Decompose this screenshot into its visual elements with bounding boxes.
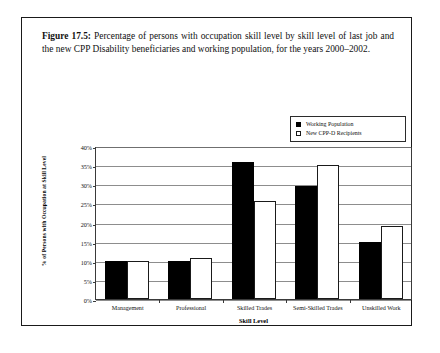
legend-item-new-cppd-recipients: New CPP-D Recipients: [296, 129, 401, 138]
bar-working-population: [105, 261, 127, 299]
y-axis-tick-label: 15%: [46, 241, 92, 247]
x-axis-title: Skill Level: [95, 317, 412, 324]
chart: % of Persons with Occupation at Skill Le…: [22, 114, 413, 327]
bars-layer: [96, 147, 411, 299]
figure-caption-text: Percentage of persons with occupation sk…: [42, 31, 394, 54]
legend-label-working-population: Working Population: [306, 120, 353, 129]
x-axis-tick-mark: [350, 299, 351, 303]
figure-page: Figure 17.5: Percentage of persons with …: [0, 0, 440, 353]
bar-working-population: [232, 162, 254, 299]
bar-new-cppd-recipients: [317, 165, 339, 299]
bar-working-population: [295, 186, 317, 299]
gridline: 0%: [96, 300, 411, 301]
plot-area: 0%5%10%15%20%25%30%35%40% ManagementProf…: [95, 147, 412, 300]
x-axis-tick-label: Unskilled Work: [350, 305, 413, 312]
bar-new-cppd-recipients: [190, 258, 212, 299]
x-axis-tick-mark: [286, 299, 287, 303]
y-axis-tick-label: 10%: [46, 260, 92, 266]
bar-group: [223, 147, 286, 299]
x-axis-tick-label: Management: [96, 305, 159, 312]
x-axis-tick-label: Skilled Trades: [223, 305, 286, 312]
y-axis-tick-label: 20%: [46, 222, 92, 228]
legend-item-working-population: Working Population: [296, 120, 401, 129]
legend-label-new-cppd-recipients: New CPP-D Recipients: [306, 129, 362, 138]
bar-group: [96, 147, 159, 299]
bar-group: [159, 147, 222, 299]
figure-caption: Figure 17.5: Percentage of persons with …: [42, 30, 394, 56]
y-axis-tick-mark: [93, 301, 96, 302]
y-axis-title: % of Persons with Occupation at Skill Le…: [38, 0, 50, 132]
x-axis-tick-label: Professional: [159, 305, 222, 312]
y-axis-tick-label: 40%: [46, 145, 92, 151]
x-axis-tick-label: Semi-Skilled Trades: [286, 305, 349, 312]
y-axis-tick-label: 35%: [46, 164, 92, 170]
bar-working-population: [168, 261, 190, 299]
y-axis-tick-label: 30%: [46, 183, 92, 189]
bar-new-cppd-recipients: [254, 201, 276, 299]
x-axis-tick-mark: [159, 299, 160, 303]
legend-swatch-filled-icon: [296, 122, 301, 127]
x-axis-tick-mark: [223, 299, 224, 303]
chart-legend: Working Population New CPP-D Recipients: [290, 116, 406, 142]
bar-group: [350, 147, 413, 299]
bar-new-cppd-recipients: [381, 226, 403, 299]
y-axis-tick-label: 5%: [46, 279, 92, 285]
y-axis-title-label: % of Persons with Occupation at Skill Le…: [38, 132, 50, 290]
y-axis-tick-label: 0%: [46, 298, 92, 304]
y-axis-tick-label: 25%: [46, 202, 92, 208]
bar-working-population: [359, 242, 381, 299]
figure-border: Figure 17.5: Percentage of persons with …: [21, 17, 412, 326]
legend-swatch-hollow-icon: [296, 131, 301, 136]
bar-new-cppd-recipients: [127, 261, 149, 299]
bar-group: [286, 147, 349, 299]
